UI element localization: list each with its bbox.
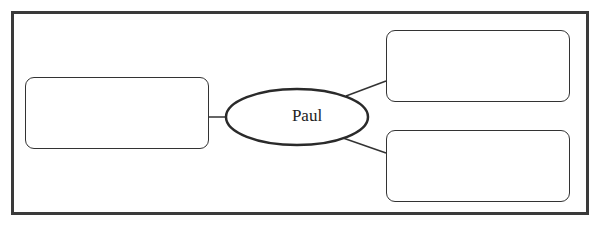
node-top-right[interactable] bbox=[386, 30, 570, 102]
edge-bottom-right bbox=[343, 138, 386, 153]
edge-top-right bbox=[346, 81, 386, 96]
node-bottom-right[interactable] bbox=[386, 130, 570, 202]
center-node-label: Paul bbox=[262, 106, 352, 126]
node-left[interactable] bbox=[25, 77, 209, 149]
